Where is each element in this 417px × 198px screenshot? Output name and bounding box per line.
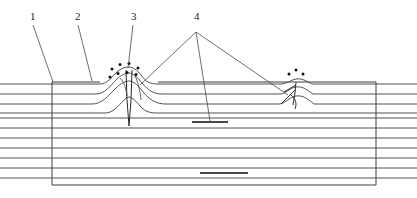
leader-line-4c — [196, 32, 288, 95]
leader-line-2 — [78, 25, 92, 81]
reservoir-dot — [302, 73, 305, 76]
reservoir-dot — [288, 73, 291, 76]
right-dome-dots — [288, 69, 305, 76]
right-dome-fault — [281, 82, 296, 109]
left-anticline-drag-folds — [120, 76, 141, 100]
reservoir-marker-bars — [192, 122, 248, 173]
callout-label-2: 2 — [75, 11, 81, 22]
leader-line-4b — [196, 32, 210, 121]
folded-strata-line-2 — [0, 73, 417, 94]
section-frame — [52, 82, 376, 185]
reservoir-dot — [119, 63, 122, 66]
reservoir-dot — [117, 72, 120, 75]
leader-line-3 — [128, 25, 133, 68]
folded-strata-line-1 — [0, 67, 417, 84]
reservoir-dot — [109, 76, 112, 79]
callout-leader-lines — [33, 25, 288, 121]
reservoir-dot — [295, 69, 298, 72]
folded-strata-layers — [0, 67, 417, 113]
callout-label-3: 3 — [131, 11, 137, 22]
reservoir-dot — [111, 68, 114, 71]
reservoir-dot — [126, 71, 129, 74]
callout-label-1: 1 — [30, 11, 36, 22]
cross-section-canvas — [0, 0, 417, 198]
geologic-cross-section-figure: 1 2 3 4 — [0, 0, 417, 198]
deep-strata-layers — [0, 118, 417, 178]
reservoir-dot — [135, 73, 138, 76]
callout-label-4: 4 — [194, 11, 200, 22]
leader-line-1 — [33, 25, 53, 82]
leader-line-4a — [140, 32, 196, 85]
reservoir-dot — [137, 67, 140, 70]
